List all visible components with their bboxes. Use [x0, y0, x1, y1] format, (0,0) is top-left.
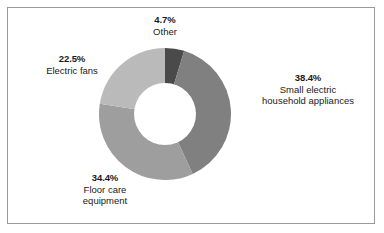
chart-figure: 4.7% Other 38.4% Small electric househol… [0, 0, 384, 233]
slice-callout-small-appliances-label-line1: Small electric [240, 84, 376, 96]
slice-callout-electric-fans: 22.5% Electric fans [22, 53, 122, 76]
slice-callout-other-percent: 4.7% [125, 14, 205, 26]
slice-callout-electric-fans-percent: 22.5% [22, 53, 122, 65]
slice-callout-small-appliances-label-line2: household appliances [240, 95, 376, 107]
slice-callout-floor-care: 34.4% Floor care equipment [55, 172, 155, 207]
slice-callout-other: 4.7% Other [125, 14, 205, 37]
slice-callout-other-label-line1: Other [125, 26, 205, 38]
slice-callout-floor-care-label-line1: Floor care [55, 184, 155, 196]
slice-callout-electric-fans-label-line1: Electric fans [22, 65, 122, 77]
slice-callout-small-appliances-percent: 38.4% [240, 72, 376, 84]
donut-center-hole [134, 83, 196, 145]
slice-callout-floor-care-percent: 34.4% [55, 172, 155, 184]
slice-callout-floor-care-label-line2: equipment [55, 195, 155, 207]
slice-callout-small-appliances: 38.4% Small electric household appliance… [240, 72, 376, 107]
